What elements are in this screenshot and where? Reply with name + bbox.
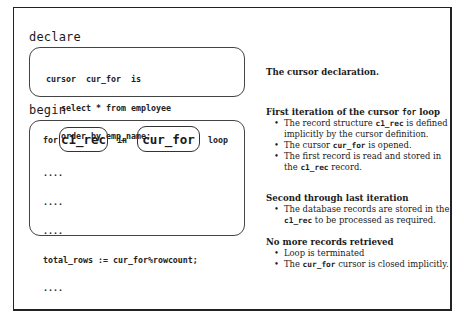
bullet-list: The database records are stored in the c… bbox=[266, 204, 452, 226]
bullet-item: Loop is terminated bbox=[266, 248, 452, 259]
bullet-item: The record structure c1_rec is defined i… bbox=[266, 118, 452, 140]
code-line: total_rows := cur_for%rowcount; bbox=[43, 256, 198, 266]
in-keyword: in bbox=[117, 135, 127, 145]
declaration-note: The cursor declaration. bbox=[266, 67, 379, 78]
bullet-item: The first record is read and stored in t… bbox=[266, 151, 452, 173]
loop-keyword: loop bbox=[208, 135, 228, 145]
code-line: .... bbox=[43, 313, 198, 318]
bullet-item: The database records are stored in the c… bbox=[266, 204, 452, 226]
section-no-more-records: No more records retrieved Loop is termin… bbox=[266, 237, 452, 270]
record-pill: c1_rec bbox=[59, 127, 108, 152]
for-keyword: for bbox=[43, 135, 58, 145]
section-title: First iteration of the cursor for loop bbox=[266, 107, 452, 118]
bullet-list: Loop is terminated The cur_for cursor is… bbox=[266, 248, 452, 270]
bullet-list: The record structure c1_rec is defined i… bbox=[266, 118, 452, 173]
code-line: .... bbox=[43, 169, 198, 179]
cursor-pill: cur_for bbox=[137, 126, 200, 152]
code-line: .... bbox=[43, 284, 198, 294]
begin-code: .... .... .... total_rows := cur_for%row… bbox=[43, 150, 198, 318]
code-line: .... bbox=[43, 227, 198, 237]
bullet-item: The cur_for cursor is closed implicitly. bbox=[266, 259, 452, 270]
bullet-item: The cursor cur_for is opened. bbox=[266, 140, 452, 151]
section-second-through-last: Second through last iteration The databa… bbox=[266, 193, 452, 226]
section-title: No more records retrieved bbox=[266, 237, 452, 248]
begin-keyword: begin bbox=[29, 103, 66, 117]
section-first-iteration: First iteration of the cursor for loop T… bbox=[266, 107, 452, 173]
section-title: Second through last iteration bbox=[266, 193, 452, 204]
code-line: .... bbox=[43, 198, 198, 208]
declare-keyword: declare bbox=[29, 30, 81, 44]
code-line: cursor cur_for is bbox=[46, 75, 171, 85]
